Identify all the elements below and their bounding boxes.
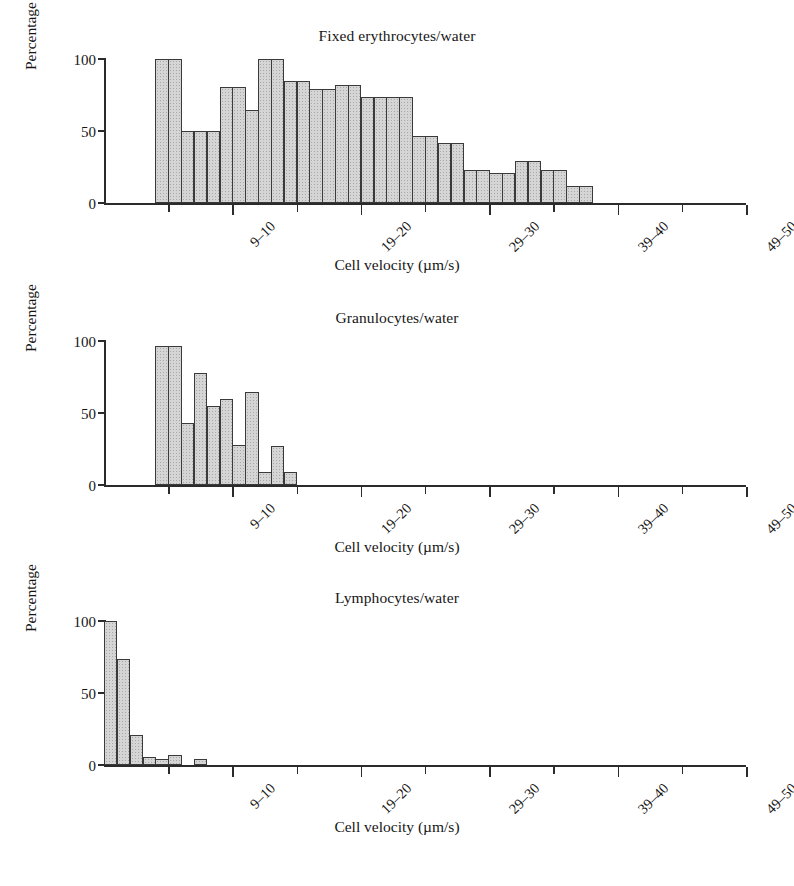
y-tick-label: 50	[81, 125, 96, 140]
histogram-bar	[284, 472, 297, 485]
x-tick-label-text: 9–10	[247, 218, 280, 251]
x-axis-title: Cell velocity (µm/s)	[0, 256, 794, 274]
x-tick-minor	[168, 487, 169, 494]
histogram-bar	[181, 131, 194, 203]
histogram-bar	[194, 131, 207, 203]
histogram-bar	[476, 170, 489, 203]
histogram-bar	[309, 89, 322, 203]
histogram-bar	[130, 735, 143, 765]
x-tick-major	[232, 767, 234, 777]
histogram-bar	[207, 131, 220, 203]
x-tick-major	[232, 487, 234, 497]
plot-area: 0501009–1019–2029–3039–4049–5059–6069–70…	[104, 340, 746, 486]
x-tick-label: 19–20	[377, 218, 415, 256]
y-tick	[98, 130, 105, 132]
x-tick-label: 9–10	[247, 218, 280, 251]
x-tick-minor	[168, 205, 169, 212]
x-tick-minor	[297, 487, 298, 494]
y-tick-label: 100	[74, 335, 97, 350]
histogram-bar	[168, 346, 181, 486]
x-tick-label-text: 39–40	[634, 218, 672, 256]
histogram-bar	[258, 472, 271, 485]
histogram-bar	[168, 755, 181, 765]
histogram-bar	[374, 97, 387, 204]
histogram-bar	[207, 406, 220, 485]
histogram-bar	[220, 399, 233, 485]
x-tick-major	[746, 767, 748, 777]
y-tick-label: 0	[89, 759, 97, 774]
x-tick-major	[489, 767, 491, 777]
histogram-bar	[220, 87, 233, 204]
histogram-bar	[579, 186, 592, 203]
x-tick-minor	[553, 205, 554, 212]
y-tick	[98, 202, 105, 204]
histogram-bar	[528, 161, 541, 203]
y-tick	[98, 484, 105, 486]
x-tick-major	[489, 205, 491, 215]
x-tick-label: 9–10	[247, 500, 280, 533]
histogram-bar	[271, 59, 284, 203]
x-tick-label-text: 39–40	[634, 500, 672, 538]
x-tick-minor	[297, 767, 298, 774]
x-tick-minor	[682, 487, 683, 494]
x-tick-label-text: 29–30	[506, 500, 544, 538]
x-tick-label-text: 9–10	[247, 500, 280, 533]
x-tick-minor	[425, 487, 426, 494]
x-tick-label: 29–30	[506, 218, 544, 256]
y-axis-title: Percentage	[22, 2, 40, 70]
x-tick-label: 39–40	[634, 218, 672, 256]
x-tick-label: 49–50	[763, 218, 794, 256]
histogram-bar	[245, 392, 258, 486]
histogram-bar	[541, 170, 554, 203]
x-tick-major	[618, 487, 620, 497]
histogram-bar	[155, 346, 168, 486]
histogram-bar	[489, 173, 502, 203]
x-tick-major	[746, 205, 748, 215]
histogram-bar	[155, 759, 168, 765]
histogram-bar	[553, 170, 566, 203]
x-tick-minor	[425, 767, 426, 774]
histogram-bar	[297, 81, 310, 203]
histogram-panel: Lymphocytes/waterPercentage0501009–1019–…	[0, 580, 794, 858]
y-axis-title: Percentage	[22, 564, 40, 632]
histogram-bar	[284, 81, 297, 203]
x-axis-title: Cell velocity (µm/s)	[0, 538, 794, 556]
x-tick-major	[232, 205, 234, 215]
x-tick-label-text: 9–10	[247, 780, 280, 813]
x-tick-label: 49–50	[763, 780, 794, 818]
y-tick	[98, 58, 105, 60]
x-tick-label-text: 19–20	[377, 780, 415, 818]
plot-area: 0501009–1019–2029–3039–4049–5059–6069–70…	[104, 58, 746, 204]
x-tick-label: 29–30	[506, 780, 544, 818]
histogram-bar	[143, 757, 156, 766]
histogram-bar	[386, 97, 399, 204]
x-tick-label: 39–40	[634, 500, 672, 538]
histogram-bar	[438, 143, 451, 203]
histogram-bar	[194, 759, 207, 765]
x-tick-major	[361, 205, 363, 215]
histogram-bar	[245, 110, 258, 204]
histogram-bar	[168, 59, 181, 203]
x-tick-major	[618, 205, 620, 215]
panel-title: Granulocytes/water	[0, 309, 794, 327]
x-tick-major	[618, 767, 620, 777]
panel-title: Fixed erythrocytes/water	[0, 27, 794, 45]
y-tick-label: 100	[74, 53, 97, 68]
histogram-bar	[181, 423, 194, 485]
figure-histograms: Fixed erythrocytes/waterPercentage050100…	[0, 0, 794, 886]
x-tick-minor	[425, 205, 426, 212]
x-tick-major	[746, 487, 748, 497]
y-tick-label: 50	[81, 687, 96, 702]
x-tick-label: 19–20	[377, 780, 415, 818]
x-tick-minor	[553, 767, 554, 774]
x-tick-label: 19–20	[377, 500, 415, 538]
histogram-bar	[361, 97, 374, 204]
x-tick-minor	[168, 767, 169, 774]
histogram-bar	[271, 446, 284, 485]
histogram-bar	[464, 170, 477, 203]
histogram-bar	[399, 97, 412, 204]
histogram-bar	[232, 445, 245, 485]
histogram-bar	[104, 621, 117, 765]
x-tick-minor	[682, 205, 683, 212]
histogram-bar	[194, 373, 207, 485]
